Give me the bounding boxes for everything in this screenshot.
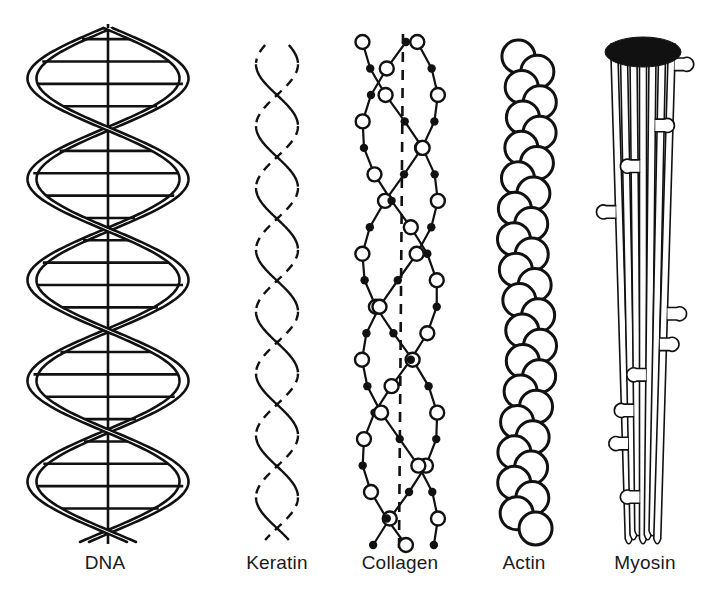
myosin-diagram bbox=[590, 0, 705, 596]
panel-myosin bbox=[590, 0, 705, 596]
caption-myosin: Myosin bbox=[575, 552, 705, 574]
collagen-diagram bbox=[335, 0, 465, 596]
keratin-diagram bbox=[225, 0, 330, 596]
panel-keratin bbox=[225, 0, 330, 596]
dna-diagram bbox=[0, 0, 210, 596]
panel-dna bbox=[0, 0, 210, 596]
caption-collagen: Collagen bbox=[325, 552, 475, 574]
figure-root: DNA Keratin Collagen Actin Myosin bbox=[0, 0, 705, 596]
caption-dna: DNA bbox=[25, 552, 185, 574]
caption-actin: Actin bbox=[454, 552, 594, 574]
panel-actin bbox=[480, 0, 575, 596]
panel-collagen bbox=[335, 0, 465, 596]
actin-diagram bbox=[480, 0, 575, 596]
